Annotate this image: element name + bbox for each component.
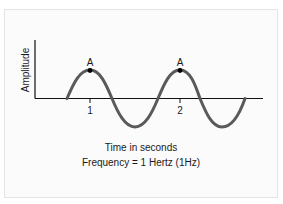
- frequency-caption: Frequency = 1 Hertz (1Hz): [82, 157, 200, 168]
- x-axis-caption: Time in seconds: [105, 142, 177, 153]
- tick-label-2: 2: [177, 105, 183, 116]
- peak-point-1: [88, 68, 93, 73]
- tick-label-1: 1: [87, 105, 93, 116]
- sine-wave-diagram: A A 1 2 Amplitude Time in seconds Freque…: [0, 0, 283, 204]
- peak-label-1: A: [87, 57, 94, 68]
- peak-point-2: [178, 68, 183, 73]
- peak-label-2: A: [177, 57, 184, 68]
- y-axis-label: Amplitude: [20, 47, 31, 92]
